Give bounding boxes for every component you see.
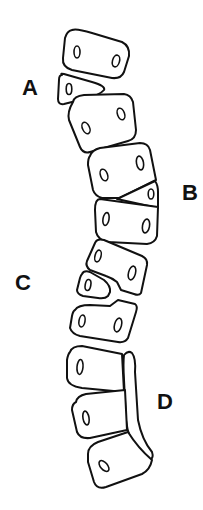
block-11: [72, 390, 127, 438]
block-1: [63, 29, 129, 78]
block-3: [69, 94, 137, 152]
block-9: [70, 300, 137, 342]
label-c: C: [15, 272, 31, 294]
label-a: A: [22, 77, 38, 99]
block-10: [67, 346, 124, 392]
label-d: D: [157, 391, 173, 413]
block-6: [95, 199, 158, 244]
diagram-canvas: A B C D: [0, 0, 203, 510]
label-b: B: [182, 182, 198, 204]
